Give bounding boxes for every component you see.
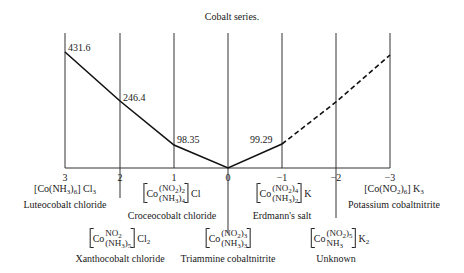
x-tick: −2 [326,172,346,183]
x-tick: 0 [222,172,234,183]
formula-luteocobalt: [Co(NH3)6] Cl3 [34,183,96,194]
name-potassium: Potassium cobaltnitrite [348,199,440,210]
name-xanthocobalt: Xanthocobalt chloride [75,253,164,264]
chart-title: Cobalt series. [0,11,464,22]
formula-unknown: Co(NO2)5NH3K2 [311,228,369,248]
x-tick: 2 [114,172,126,183]
data-label-246: 246.4 [123,92,146,103]
data-label-431: 431.6 [68,42,91,53]
formula-potassium: [Co(NO2)6] K3 [364,183,424,194]
data-label-99: 99.29 [250,134,273,145]
name-erdmann: Erdmann's salt [253,210,312,221]
formula-erdmann: Co(NO2)4(NH3)2K [257,183,312,203]
vertical-gridlines [65,33,390,233]
x-tick: 1 [168,172,180,183]
formula-xanthocobalt: CoNO2(NH3)5Cl2 [90,228,151,248]
x-tick: −1 [272,172,292,183]
name-luteocobalt: Luteocobalt chloride [23,199,106,210]
formula-triammine: Co(NO2)3(NH3)3 [206,228,251,248]
x-tick: −3 [380,172,400,183]
x-tick: 3 [59,172,71,183]
name-croceocobalt: Croceocobalt chloride [128,210,217,221]
data-label-98: 98.35 [177,134,200,145]
name-unknown: Unknown [316,253,355,264]
name-triammine: Triammine cobaltnitrite [181,253,276,264]
formula-croceocobalt: Co(NO2)2(NH3)4Cl [143,183,200,203]
